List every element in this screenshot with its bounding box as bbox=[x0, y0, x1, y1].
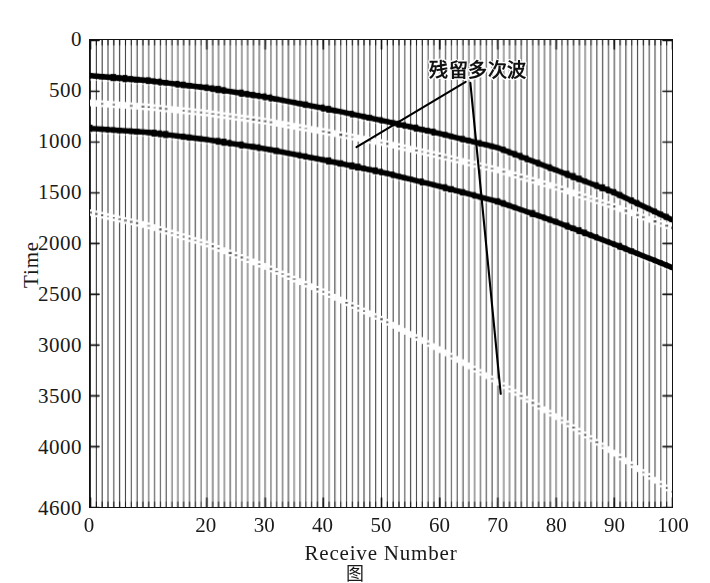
y-tick-label: 4000 bbox=[38, 436, 82, 457]
annotation-label-residual-multiples: 残留多次波 bbox=[429, 59, 527, 81]
x-tick-label: 30 bbox=[254, 513, 275, 537]
y-tick-label: 3000 bbox=[38, 334, 82, 355]
x-tick-label: 60 bbox=[429, 513, 450, 537]
x-tick-label: 20 bbox=[195, 513, 216, 537]
y-tick-label: 1000 bbox=[38, 130, 82, 151]
y-axis-title: Time bbox=[19, 225, 44, 305]
y-tick-label: 500 bbox=[49, 79, 82, 100]
y-tick-label: 1500 bbox=[38, 181, 82, 202]
seismic-gather-figure: 050010001500200025003000350040004600 Tim… bbox=[0, 0, 710, 583]
y-tick-label: 0 bbox=[71, 29, 82, 50]
figure-caption: 图 bbox=[0, 563, 710, 583]
y-tick-label: 2000 bbox=[38, 232, 82, 253]
x-tick-label: 0 bbox=[84, 513, 95, 537]
seismic-wiggle-canvas bbox=[90, 40, 672, 507]
x-tick-label: 90 bbox=[604, 513, 625, 537]
x-tick-label: 80 bbox=[546, 513, 567, 537]
x-tick-label: 70 bbox=[487, 513, 508, 537]
x-tick-label: 40 bbox=[312, 513, 333, 537]
plot-area bbox=[89, 39, 673, 508]
y-tick-label: 2500 bbox=[38, 283, 82, 304]
x-tick-label: 50 bbox=[371, 513, 392, 537]
x-tick-label: 100 bbox=[657, 513, 689, 537]
y-tick-label: 3500 bbox=[38, 385, 82, 406]
x-axis-tick-labels: 02030405060708090100 bbox=[0, 513, 710, 543]
